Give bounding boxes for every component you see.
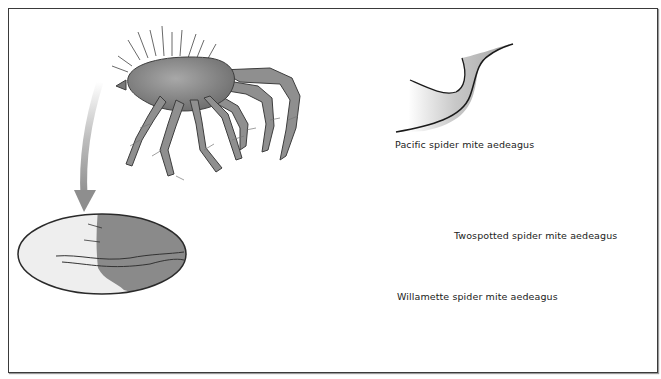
magnify-arrow-icon [74,82,100,212]
spider-mite-illustration [112,26,300,180]
pacific-aedeagus-shape [396,44,513,132]
figure-artwork [0,0,661,379]
magnified-aedeagus-inset [18,200,200,298]
twospotted-aedeagus-label: Twospotted spider mite aedeagus [454,230,617,241]
willamette-aedeagus-label: Willamette spider mite aedeagus [397,291,558,302]
pacific-aedeagus-label: Pacific spider mite aedeagus [395,139,534,150]
